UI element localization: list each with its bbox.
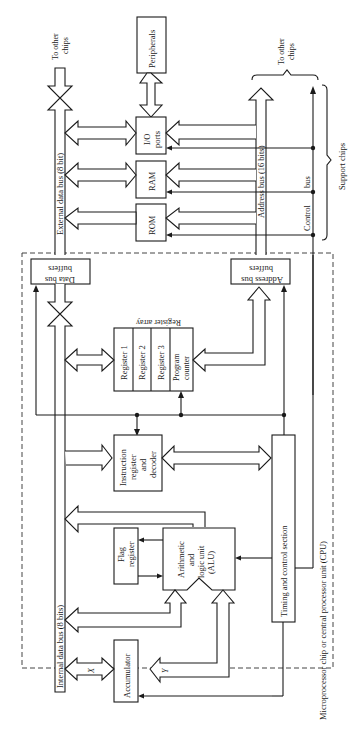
- svg-text:ROM: ROM: [147, 215, 157, 235]
- svg-text:and: and: [138, 458, 148, 471]
- peripherals-io-bus: [140, 73, 162, 117]
- support-chips-label: Support chips: [322, 85, 347, 240]
- accumulator: Accumulator: [114, 640, 138, 702]
- svg-text:Arithmetic: Arithmetic: [176, 541, 186, 578]
- svg-text:logic unit: logic unit: [196, 545, 206, 578]
- svg-text:External data bus (8 bit): External data bus (8 bit): [55, 153, 65, 235]
- svg-text:Support chips: Support chips: [337, 143, 347, 190]
- acc-to-alu-y-arrow: [150, 590, 234, 682]
- timing-control-section: Timing and control section: [272, 435, 295, 622]
- register-data-arrow: [65, 349, 114, 371]
- to-other-chips-addr-label: To other chips: [252, 38, 318, 80]
- svg-text:ports: ports: [152, 131, 162, 148]
- instruction-register-decoder: Instruction register and decoder: [114, 435, 162, 491]
- flag-register: Flag register: [114, 528, 138, 584]
- data-to-instruction-arrow: [65, 445, 112, 470]
- svg-text:(ALU): (ALU): [206, 551, 216, 574]
- svg-text:Flag: Flag: [116, 546, 126, 562]
- ram-data-arrow: [65, 163, 136, 187]
- svg-text:chips: chips: [287, 43, 296, 60]
- svg-text:Internal data bus (8 bits): Internal data bus (8 bits): [55, 605, 65, 688]
- io-data-arrow: [65, 121, 136, 145]
- svg-text:To other: To other: [51, 33, 60, 60]
- svg-text:chips: chips: [61, 37, 70, 54]
- svg-text:Address bus (16 bits): Address bus (16 bits): [256, 145, 266, 218]
- rom-data-arrow: [65, 208, 136, 229]
- svg-text:register: register: [128, 454, 138, 480]
- program-counter: Program: [172, 353, 181, 381]
- svg-text:Accumulator: Accumulator: [122, 653, 132, 698]
- pc-address-arrow: [193, 287, 270, 371]
- svg-text:bus: bus: [302, 176, 312, 188]
- register-array: Register array Register 1 Register 2 Reg…: [114, 318, 193, 391]
- cpu-title: Microprocessor chip or central processor…: [318, 541, 328, 720]
- svg-text:counter: counter: [182, 356, 191, 380]
- svg-text:Data bus: Data bus: [45, 275, 75, 285]
- svg-text:decoder: decoder: [148, 451, 158, 478]
- svg-text:To other: To other: [277, 38, 286, 65]
- addr-ram-arrow: [166, 163, 256, 187]
- external-data-bus: External data bus (8 bit): [48, 68, 72, 255]
- internal-data-bus: Internal data bus (8 bits): [48, 284, 72, 692]
- svg-text:Address bus: Address bus: [241, 275, 283, 285]
- instruction-timing-arrow: [162, 446, 271, 470]
- svg-text:register: register: [126, 541, 136, 567]
- svg-text:buffers: buffers: [249, 264, 273, 274]
- register-3: Register 3: [156, 345, 166, 380]
- ram-box: RAM: [136, 161, 166, 198]
- register-2: Register 2: [137, 345, 147, 380]
- peripherals-box: Peripherals: [137, 17, 166, 73]
- microprocessor-block-diagram: Microprocessor chip or central processor…: [0, 0, 358, 735]
- svg-text:buffers: buffers: [48, 264, 72, 274]
- alu-box: Arithmetic and logic unit (ALU): [163, 528, 235, 590]
- addr-rom-arrow: [166, 208, 256, 229]
- svg-text:RAM: RAM: [147, 171, 157, 191]
- svg-text:and: and: [186, 553, 196, 566]
- io-ports-box: I/O ports: [136, 117, 166, 154]
- svg-text:Peripherals: Peripherals: [147, 30, 157, 68]
- register-1: Register 1: [119, 345, 129, 380]
- svg-text:Register array: Register array: [136, 318, 181, 327]
- rom-box: ROM: [136, 204, 166, 241]
- svg-text:I/O: I/O: [142, 134, 152, 145]
- address-bus-buffers: Address bus buffers: [231, 259, 290, 285]
- addr-io-arrow: [166, 121, 256, 145]
- data-bus-buffers: Data bus buffers: [31, 259, 90, 285]
- svg-text:Control: Control: [302, 204, 312, 231]
- svg-text:Instruction: Instruction: [118, 448, 128, 486]
- to-other-chips-data-label: To other chips: [51, 33, 70, 60]
- svg-text:Timing and control section: Timing and control section: [279, 525, 289, 617]
- bus-to-alu-x-arrow: [65, 590, 186, 632]
